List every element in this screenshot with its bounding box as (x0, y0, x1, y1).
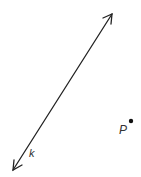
line-k (13, 14, 112, 170)
point-label-p: P (119, 123, 127, 137)
point-p (129, 119, 133, 123)
geometry-diagram: k P (0, 0, 141, 177)
line-label-k: k (29, 147, 35, 159)
